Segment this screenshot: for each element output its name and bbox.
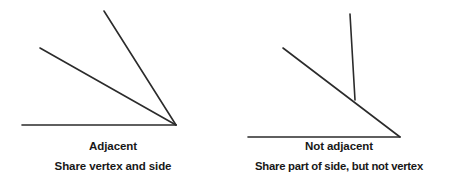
- angle-comparison-figure: Adjacent Share vertex and side Not adjac…: [0, 0, 452, 190]
- panel-adjacent: Adjacent Share vertex and side: [0, 0, 226, 190]
- adjacent-caption-subtitle: Share vertex and side: [0, 160, 226, 173]
- adjacent-angle-diagram: [0, 0, 226, 145]
- not-adjacent-slanted-ray: [283, 48, 400, 137]
- adjacent-caption-title: Adjacent: [0, 140, 226, 153]
- not-adjacent-vertical-ray: [350, 14, 355, 100]
- adjacent-steep-ray: [104, 11, 176, 125]
- not-adjacent-caption-title: Not adjacent: [226, 140, 452, 153]
- not-adjacent-angle-diagram: [226, 0, 452, 145]
- adjacent-middle-ray: [40, 48, 176, 125]
- not-adjacent-caption-subtitle: Share part of side, but not vertex: [226, 160, 452, 173]
- panel-not-adjacent: Not adjacent Share part of side, but not…: [226, 0, 452, 190]
